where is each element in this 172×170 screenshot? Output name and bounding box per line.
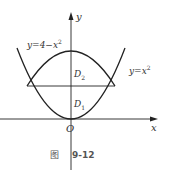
curve-lower-label: y=x2: [128, 64, 151, 76]
y-axis-arrow-icon: [69, 12, 74, 20]
x-axis-label: x: [151, 122, 157, 133]
x-axis-arrow-icon: [150, 117, 158, 122]
figure-9-12: y x O y=4−x2 y=x2 D2 D1 图 9-12: [0, 0, 172, 170]
y-axis: [69, 12, 74, 170]
region-d2-label: D2: [73, 69, 85, 81]
region-d1-label: D1: [73, 99, 85, 111]
curve-upper-label: y=4−x2: [26, 38, 62, 50]
figure-caption-prefix: 图: [50, 150, 59, 160]
figure-caption-number: 9-12: [72, 150, 95, 160]
origin-label: O: [66, 123, 74, 134]
y-axis-label: y: [75, 11, 82, 22]
